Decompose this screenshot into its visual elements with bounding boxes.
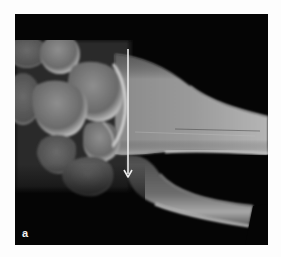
panel-label: a [22,228,28,239]
ulna-bone [127,156,268,245]
wrist-xray-image [15,14,268,245]
page: a [0,0,281,257]
radiograph-figure: a [15,14,268,245]
top-band [15,14,268,40]
radius-bone [115,54,268,155]
